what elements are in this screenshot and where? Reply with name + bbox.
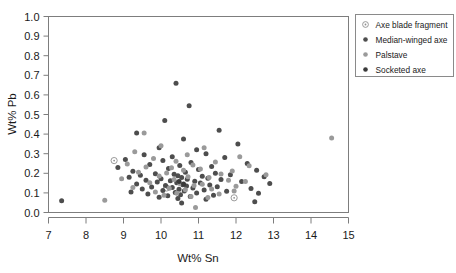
x-tick-label-6: 13	[267, 229, 279, 241]
point-1-34	[127, 175, 132, 180]
point-2-4	[132, 149, 137, 154]
legend-label-axe-blade-fragment[interactable]: Axe blade fragment	[376, 20, 449, 30]
y-tick-label-5: 0.5	[24, 109, 39, 121]
point-2-8	[174, 159, 179, 164]
point-1-64	[129, 189, 134, 194]
point-2-35	[167, 186, 172, 191]
point-2-19	[164, 170, 169, 175]
point-1-69	[145, 191, 150, 196]
point-2-2	[159, 143, 164, 148]
legend-label-palstave[interactable]: Palstave	[376, 50, 408, 60]
point-2-46	[193, 205, 198, 210]
point-2-15	[198, 166, 203, 171]
x-axis-title: Wt% Sn	[177, 252, 219, 264]
point-2-20	[219, 172, 224, 177]
point-1-20	[115, 165, 120, 170]
point-0-0-dot	[113, 160, 115, 162]
point-2-27	[226, 178, 231, 183]
x-tick-label-4: 11	[193, 229, 204, 241]
point-1-2	[162, 118, 167, 123]
y-tick-label-6: 0.6	[24, 89, 39, 101]
point-1-48	[134, 182, 139, 187]
point-1-1	[187, 103, 192, 108]
x-tick-label-7: 14	[305, 229, 317, 241]
y-tick-label-3: 0.3	[24, 148, 39, 160]
point-2-1	[142, 131, 147, 136]
legend-marker-socketed-axe	[363, 67, 368, 72]
point-1-4	[134, 131, 139, 136]
point-1-78	[179, 201, 184, 206]
point-1-57	[249, 186, 254, 191]
point-1-74	[157, 195, 162, 200]
point-1-58	[140, 186, 145, 191]
point-1-12	[222, 155, 227, 160]
point-1-10	[142, 152, 147, 157]
y-tick-label-4: 0.4	[24, 128, 39, 140]
point-2-36	[209, 186, 214, 191]
point-2-42	[217, 192, 222, 197]
point-1-53	[215, 184, 220, 189]
legend-marker-median-winged-axe	[363, 37, 368, 42]
point-2-28	[243, 179, 248, 184]
legend-label-socketed-axe[interactable]: Socketed axe	[376, 65, 427, 75]
point-1-75	[175, 196, 180, 201]
point-2-18	[136, 170, 141, 175]
point-1-44	[155, 180, 160, 185]
point-2-24	[207, 175, 212, 180]
x-tick-label-3: 10	[155, 229, 167, 241]
point-1-66	[194, 190, 199, 195]
x-tick-label-5: 12	[230, 229, 242, 241]
point-1-63	[224, 189, 229, 194]
point-2-33	[234, 184, 239, 189]
point-1-14	[160, 158, 165, 163]
y-tick-label-2: 0.2	[24, 167, 39, 179]
y-tick-label-10: 1.0	[24, 11, 39, 23]
point-2-44	[189, 194, 194, 199]
point-1-77	[252, 199, 257, 204]
point-2-13	[144, 165, 149, 170]
point-1-67	[256, 191, 261, 196]
point-1-54	[149, 185, 154, 190]
point-1-8	[194, 147, 199, 152]
point-2-41	[174, 191, 179, 196]
legend-marker-palstave	[363, 52, 368, 57]
point-1-42	[192, 179, 197, 184]
y-tick-label-8: 0.8	[24, 50, 39, 62]
point-2-26	[172, 177, 177, 182]
point-2-31	[200, 182, 205, 187]
point-1-6	[235, 141, 240, 146]
legend-marker-axe-blade-fragment-dot	[365, 24, 367, 26]
point-2-37	[183, 187, 188, 192]
point-2-16	[181, 168, 186, 173]
point-1-9	[204, 151, 209, 156]
point-2-32	[192, 183, 197, 188]
point-1-26	[213, 171, 218, 176]
point-1-60	[202, 187, 207, 192]
y-tick-label-0: 0.0	[24, 207, 39, 219]
point-2-12	[247, 163, 252, 168]
point-2-5	[185, 152, 190, 157]
point-2-7	[151, 156, 156, 161]
x-tick-label-2: 9	[120, 229, 126, 241]
point-1-61	[160, 188, 165, 193]
point-2-25	[119, 176, 124, 181]
point-1-5	[181, 137, 186, 142]
x-tick-label-0: 7	[45, 229, 51, 241]
point-1-18	[177, 163, 182, 168]
y-tick-label-7: 0.7	[24, 69, 39, 81]
y-axis-title: Wt% Pb	[6, 93, 18, 135]
point-1-24	[130, 169, 135, 174]
point-1-23	[254, 168, 259, 173]
legend-label-median-winged-axe[interactable]: Median-winged axe	[376, 35, 448, 45]
x-tick-label-8: 15	[342, 229, 354, 241]
point-2-39	[102, 198, 107, 203]
x-tick-label-1: 8	[83, 229, 89, 241]
point-2-23	[186, 174, 191, 179]
point-2-6	[237, 154, 242, 159]
point-2-10	[125, 161, 130, 166]
point-1-13	[123, 157, 128, 162]
point-1-68	[59, 198, 64, 203]
legend[interactable]: Axe blade fragmentMedian-winged axePalst…	[356, 15, 454, 77]
point-2-43	[162, 193, 167, 198]
scatter-plot-figure: 0.00.10.20.30.40.50.60.70.80.91.0 789101…	[0, 0, 456, 273]
